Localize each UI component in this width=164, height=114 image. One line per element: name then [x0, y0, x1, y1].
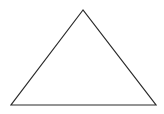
triangle-diagram	[0, 0, 164, 114]
triangle-shape	[11, 10, 156, 105]
diagram-canvas	[0, 0, 164, 114]
